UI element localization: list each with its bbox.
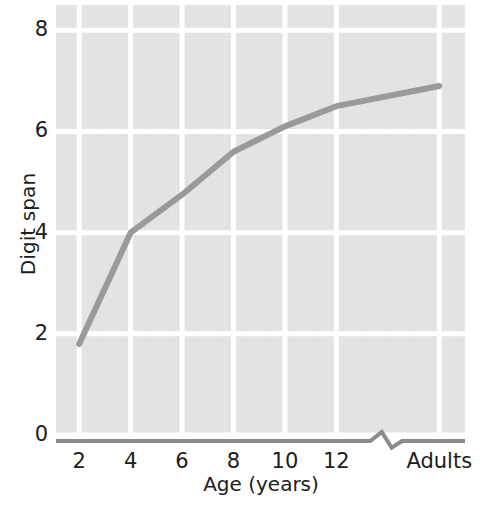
panel-texture-stripe bbox=[83, 5, 84, 435]
panel-texture-stripe bbox=[236, 5, 237, 435]
panel-texture-stripe bbox=[272, 5, 273, 435]
panel-texture-stripe bbox=[416, 5, 417, 435]
panel-texture-stripe bbox=[443, 5, 444, 435]
panel-texture-stripe bbox=[191, 5, 192, 435]
y-tick-label-8: 8 bbox=[14, 19, 48, 40]
panel-texture-stripe bbox=[419, 5, 420, 435]
y-tick-label-0: 0 bbox=[14, 424, 48, 445]
panel-texture-stripe bbox=[362, 5, 363, 435]
panel-texture-stripe bbox=[98, 5, 99, 435]
panel-texture-stripe bbox=[215, 5, 216, 435]
panel-texture-stripe bbox=[389, 5, 390, 435]
panel-texture-stripe bbox=[134, 5, 135, 435]
panel-texture-stripe bbox=[263, 5, 264, 435]
panel-texture-stripe bbox=[206, 5, 207, 435]
panel-texture-stripe bbox=[356, 5, 357, 435]
panel-texture-stripe bbox=[56, 5, 57, 435]
panel-texture-stripe bbox=[158, 5, 159, 435]
panel-texture-stripe bbox=[317, 5, 318, 435]
panel-texture-stripe bbox=[320, 5, 321, 435]
panel-texture-stripe bbox=[161, 5, 162, 435]
panel-texture-stripe bbox=[65, 5, 66, 435]
panel-texture-stripe bbox=[350, 5, 351, 435]
panel-texture-stripe bbox=[386, 5, 387, 435]
panel-texture-stripe bbox=[167, 5, 168, 435]
panel-texture-stripe bbox=[200, 5, 201, 435]
x-tick-label-adults: Adults bbox=[406, 451, 472, 472]
panel-texture-stripe bbox=[224, 5, 225, 435]
panel-texture-stripe bbox=[176, 5, 177, 435]
x-tick-label-10: 10 bbox=[272, 451, 299, 472]
panel-texture-stripe bbox=[62, 5, 63, 435]
panel-texture-stripe bbox=[119, 5, 120, 435]
data-line-digit-span bbox=[79, 86, 439, 344]
panel-texture-stripe bbox=[296, 5, 297, 435]
panel-texture-stripe bbox=[290, 5, 291, 435]
panel-texture-stripe bbox=[197, 5, 198, 435]
panel-texture-stripe bbox=[410, 5, 411, 435]
panel-texture-stripe bbox=[449, 5, 450, 435]
panel-texture-stripe bbox=[305, 5, 306, 435]
y-tick-label-4: 4 bbox=[14, 222, 48, 243]
panel-texture-stripe bbox=[203, 5, 204, 435]
panel-texture-stripe bbox=[434, 5, 435, 435]
panel-texture-stripe bbox=[395, 5, 396, 435]
panel-texture-stripe bbox=[71, 5, 72, 435]
panel-texture-stripe bbox=[302, 5, 303, 435]
panel-texture-stripe bbox=[104, 5, 105, 435]
panel-texture-stripe bbox=[314, 5, 315, 435]
plot-panel bbox=[56, 5, 465, 435]
panel-texture-stripe bbox=[461, 5, 462, 435]
panel-texture-stripe bbox=[266, 5, 267, 435]
panel-texture-stripe bbox=[275, 5, 276, 435]
panel-texture-stripe bbox=[125, 5, 126, 435]
panel-texture-stripe bbox=[368, 5, 369, 435]
panel-texture-stripe bbox=[404, 5, 405, 435]
panel-texture-stripe bbox=[401, 5, 402, 435]
panel-texture-stripe bbox=[464, 5, 465, 435]
panel-texture-stripe bbox=[122, 5, 123, 435]
panel-texture-stripe bbox=[422, 5, 423, 435]
panel-texture-stripe bbox=[407, 5, 408, 435]
panel-texture-stripe bbox=[392, 5, 393, 435]
panel-texture-stripe bbox=[383, 5, 384, 435]
panel-texture-stripe bbox=[428, 5, 429, 435]
x-tick-label-6: 6 bbox=[175, 451, 188, 472]
panel-texture-stripe bbox=[185, 5, 186, 435]
panel-texture-stripe bbox=[371, 5, 372, 435]
panel-texture-stripe bbox=[344, 5, 345, 435]
panel-texture-stripe bbox=[281, 5, 282, 435]
panel-texture-stripe bbox=[269, 5, 270, 435]
panel-texture-stripe bbox=[140, 5, 141, 435]
panel-texture-stripe bbox=[137, 5, 138, 435]
chart-figure: Digit span 02468 24681012Adults Age (yea… bbox=[0, 0, 490, 510]
x-tick-label-4: 4 bbox=[124, 451, 137, 472]
panel-texture-stripe bbox=[446, 5, 447, 435]
panel-texture-stripe bbox=[365, 5, 366, 435]
panel-texture-stripe bbox=[452, 5, 453, 435]
panel-texture-stripe bbox=[227, 5, 228, 435]
panel-texture-stripe bbox=[380, 5, 381, 435]
panel-texture-stripe bbox=[323, 5, 324, 435]
panel-texture-stripe bbox=[218, 5, 219, 435]
panel-texture-stripe bbox=[95, 5, 96, 435]
panel-texture-stripe bbox=[455, 5, 456, 435]
panel-texture-stripe bbox=[74, 5, 75, 435]
panel-texture-stripe bbox=[188, 5, 189, 435]
panel-texture-stripe bbox=[92, 5, 93, 435]
panel-texture-stripe bbox=[251, 5, 252, 435]
panel-texture-stripe bbox=[113, 5, 114, 435]
panel-texture-stripe bbox=[293, 5, 294, 435]
panel-texture-stripe bbox=[332, 5, 333, 435]
panel-texture-stripe bbox=[89, 5, 90, 435]
panel-texture-stripe bbox=[425, 5, 426, 435]
x-tick-label-2: 2 bbox=[72, 451, 85, 472]
panel-texture-stripe bbox=[260, 5, 261, 435]
panel-texture-stripe bbox=[359, 5, 360, 435]
panel-texture-stripe bbox=[254, 5, 255, 435]
panel-texture-stripe bbox=[116, 5, 117, 435]
panel-texture-stripe bbox=[107, 5, 108, 435]
panel-texture-stripe bbox=[311, 5, 312, 435]
panel-texture-stripe bbox=[278, 5, 279, 435]
panel-texture-stripe bbox=[299, 5, 300, 435]
